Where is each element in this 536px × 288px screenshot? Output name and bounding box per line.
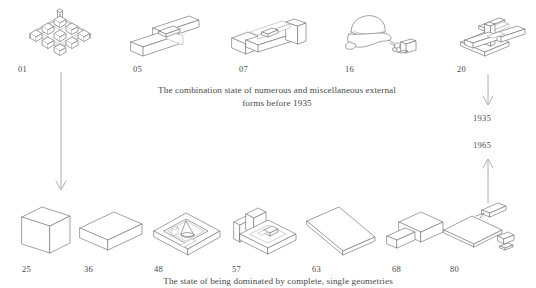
object-25-upright-rectangular-block bbox=[18, 203, 74, 259]
object-label-68: 68 bbox=[392, 264, 401, 274]
object-label-80: 80 bbox=[450, 264, 459, 274]
object-48-square-basin-with-cone bbox=[150, 205, 224, 257]
year-label-1965: 1965 bbox=[473, 140, 491, 150]
object-label-36: 36 bbox=[84, 264, 93, 274]
object-07-walled-frame-enclosure bbox=[228, 14, 306, 62]
object-16-organic-blob-with-fragments bbox=[337, 10, 417, 64]
object-63-long-thin-bar bbox=[305, 205, 377, 255]
object-36-flat-horizontal-slab bbox=[78, 208, 144, 256]
object-20-crossing-bar-assembly bbox=[455, 12, 527, 62]
object-68-l-shaped-block bbox=[385, 210, 447, 256]
object-label-63: 63 bbox=[312, 264, 321, 274]
object-label-25: 25 bbox=[22, 264, 31, 274]
object-label-57: 57 bbox=[232, 264, 241, 274]
arrow-down-right bbox=[479, 74, 497, 112]
arrow-down-left bbox=[52, 72, 70, 198]
object-label-20: 20 bbox=[457, 64, 466, 74]
object-label-16: 16 bbox=[345, 64, 354, 74]
object-57-open-walled-tray bbox=[228, 202, 300, 258]
top-caption-line-1: The combination state of numerous and mi… bbox=[141, 84, 413, 97]
object-label-48: 48 bbox=[154, 264, 163, 274]
top-caption-line-2: forms before 1935 bbox=[141, 97, 413, 110]
top-caption: The combination state of numerous and mi… bbox=[141, 84, 413, 111]
year-label-1935: 1935 bbox=[473, 113, 491, 123]
diagram-canvas: 01 05 bbox=[0, 0, 536, 288]
object-label-07: 07 bbox=[239, 64, 248, 74]
object-05-crossed-beams-l-form bbox=[123, 14, 203, 62]
object-label-05: 05 bbox=[133, 64, 142, 74]
bottom-caption: The state of being dominated by complete… bbox=[133, 275, 423, 288]
object-label-01: 01 bbox=[18, 64, 27, 74]
object-80-flat-plate-with-small-pieces bbox=[442, 200, 520, 256]
object-01-cube-lattice-grid bbox=[18, 6, 102, 62]
